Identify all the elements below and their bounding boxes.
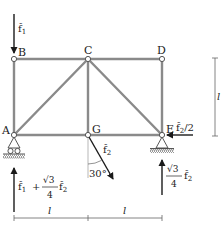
node-label-g: G	[92, 123, 101, 136]
svg-text:f̂1: f̂1	[18, 181, 26, 194]
reaction-e-label: √3 4 f̂2	[166, 164, 192, 189]
svg-text:4: 4	[47, 190, 53, 200]
svg-text:f̂2: f̂2	[59, 181, 67, 194]
node-label-d: D	[157, 44, 166, 57]
bottom-dimension	[14, 215, 162, 221]
angle-label: 30°	[89, 168, 107, 179]
svg-text:√3: √3	[43, 175, 55, 185]
dimension-label-height: l	[217, 91, 220, 102]
member-ac	[14, 59, 88, 135]
pin-support-e	[150, 137, 174, 153]
dimension-label-left: l	[48, 205, 51, 216]
load-f2-half-label: f̂2/2	[176, 122, 194, 135]
svg-text:4: 4	[171, 179, 177, 189]
svg-text:+: +	[32, 181, 40, 192]
truss-members	[14, 59, 162, 135]
roller-support-a	[3, 137, 25, 159]
node-b	[11, 56, 16, 61]
reaction-a-label: f̂1 + √3 4 f̂2	[18, 175, 67, 200]
node-label-a: A	[1, 124, 11, 137]
dimension-label-right: l	[123, 205, 126, 216]
node-e	[159, 132, 164, 137]
svg-text:√3: √3	[167, 164, 179, 174]
node-label-b: B	[18, 46, 26, 59]
load-f2-label: f̂2	[103, 144, 111, 157]
svg-text:f̂2: f̂2	[184, 170, 192, 183]
node-label-c: C	[84, 44, 92, 57]
angle-arc	[88, 160, 102, 164]
node-label-e: E	[166, 123, 174, 136]
truss-diagram: B C D A G E f̂1 30° f̂2 f̂2/2 f̂1 + √3 4…	[0, 0, 221, 234]
node-g	[85, 132, 90, 137]
node-c	[85, 56, 90, 61]
node-a	[11, 132, 16, 137]
node-d	[159, 56, 164, 61]
load-f1-label: f̂1	[18, 23, 26, 36]
